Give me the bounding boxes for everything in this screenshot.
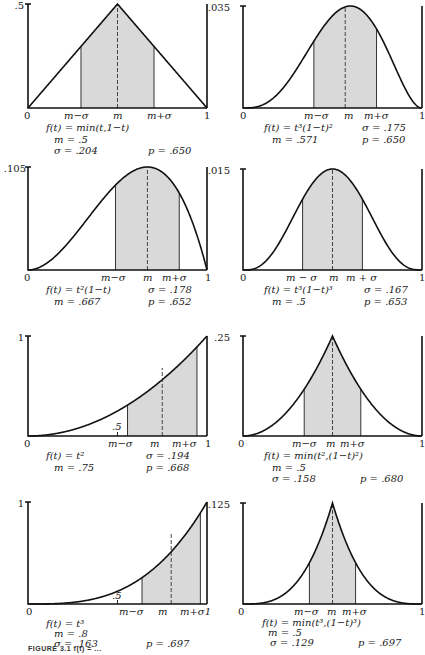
x-label-0: 0 — [240, 273, 246, 283]
plot-panel-4: .015 0 m − σ m m + σ 1 f(t) = t³(1−t)³ σ… — [212, 165, 424, 315]
stat-p: p = .668 — [146, 463, 189, 473]
x-label-m-minus-sigma: m−σ — [108, 439, 133, 449]
plot-panel-6: .25 0 m−σ m m+σ 1 f(t) = min(t²,(1−t)²) … — [212, 330, 424, 480]
stat-m: m = .75 — [54, 463, 94, 473]
formula: f(t) = min(t,1−t) — [46, 123, 129, 133]
stat-p: p = .650 — [148, 146, 191, 156]
x-label-1: 1 — [419, 111, 425, 121]
x-label-m-minus-sigma: m−σ — [292, 439, 317, 449]
stat-p: p = .697 — [146, 639, 189, 649]
y-max-label: .5 — [4, 1, 24, 11]
stat-m: m = .5 — [272, 463, 306, 473]
x-label-m: m — [158, 607, 167, 617]
figure-caption: FIGURE 3.1 f(t) = ... — [28, 645, 102, 652]
x-tick-half: .5 — [112, 422, 122, 432]
plot-svg — [0, 497, 212, 647]
x-label-0: 0 — [26, 607, 32, 617]
y-max-label: 1 — [4, 499, 24, 509]
plot-panel-2: .035 0 m−σ m m+σ 1 f(t) = t³(1−t)² σ = .… — [212, 0, 424, 150]
x-label-m-minus-sigma: m−σ — [294, 607, 319, 617]
y-max-label: .25 — [208, 333, 230, 343]
stat-p: p = .652 — [148, 297, 191, 307]
stat-m: m = .667 — [54, 297, 100, 307]
x-label-m-plus-sigma: m + σ — [346, 273, 377, 283]
y-max-label: 1 — [4, 333, 24, 343]
x-label-m-minus-sigma: m−σ — [119, 607, 144, 617]
x-label-0: 0 — [240, 111, 246, 121]
x-label-1: 1 — [205, 439, 211, 449]
x-label-m-minus-sigma: m−σ — [101, 273, 126, 283]
x-label-0: 0 — [24, 111, 30, 121]
stat-sigma: σ = .194 — [146, 451, 190, 461]
y-max-label: .125 — [206, 500, 230, 510]
stat-m: m = .5 — [272, 297, 306, 307]
stat-sigma: σ = .129 — [270, 638, 314, 648]
stat-sigma: σ = .204 — [54, 146, 98, 156]
x-label-m-plus-sigma: m+σ — [340, 439, 365, 449]
stat-m: m = .5 — [54, 135, 88, 145]
x-label-m: m — [344, 111, 353, 121]
stat-p: p = .697 — [358, 638, 401, 648]
x-label-1: 1 — [419, 439, 425, 449]
plot-panel-7: 1 .5 0 m−σ m m+σ1 f(t) = t³ m = .8 σ = .… — [0, 497, 212, 647]
x-label-0: 0 — [24, 439, 30, 449]
x-label-m-plus-sigma: m+σ — [342, 607, 367, 617]
x-label-m-plus-sigma: m+σ — [172, 439, 197, 449]
x-label-m: m — [326, 439, 335, 449]
x-label-1: 1 — [205, 273, 211, 283]
x-label-m: m — [329, 273, 338, 283]
y-max-label: .035 — [206, 3, 230, 13]
formula: f(t) = t³(1−t)³ — [264, 285, 333, 295]
stat-sigma: σ = .175 — [362, 123, 406, 133]
formula: f(t) = t³(1−t)² — [264, 123, 333, 133]
formula: f(t) = min(t²,(1−t)²) — [264, 451, 363, 461]
x-tick-half: .5 — [112, 591, 122, 601]
stat-m: m = .571 — [272, 135, 318, 145]
stat-sigma: σ = .158 — [272, 474, 316, 484]
plot-panel-8: .125 0 m−σ m m+σ 1 f(t) = min(t³,(1−t)³)… — [212, 497, 424, 647]
x-label-0: 0 — [238, 607, 244, 617]
x-label-0: 0 — [24, 273, 30, 283]
x-label-m: m — [143, 273, 152, 283]
stat-p: p = .653 — [364, 297, 407, 307]
x-label-m-minus-sigma: m−σ — [304, 111, 329, 121]
formula: f(t) = t²(1−t) — [46, 285, 111, 295]
plot-panel-5: 1 .5 0 m−σ m m+σ 1 f(t) = t² σ = .194 m … — [0, 330, 212, 480]
x-label-1: 1 — [204, 111, 210, 121]
x-label-1: 1 — [419, 607, 425, 617]
plot-panel-1: .5 0 m−σ m m+σ 1 f(t) = min(t,1−t) m = .… — [0, 0, 212, 150]
x-label-m-minus-sigma: m − σ — [286, 273, 317, 283]
stat-p: p = .650 — [362, 135, 405, 145]
x-label-m-minus-sigma: m−σ — [64, 111, 89, 121]
plot-panel-3: .105 0 m−σ m m+σ 1 f(t) = t²(1−t) σ = .1… — [0, 165, 212, 315]
x-label-m: m — [150, 439, 159, 449]
stat-p: p = .680 — [360, 474, 403, 484]
x-label-m: m — [113, 111, 122, 121]
x-label-m: m — [327, 607, 336, 617]
x-label-m-plus-sigma-1: m+σ1 — [180, 607, 211, 617]
y-max-label: .105 — [0, 164, 26, 174]
x-label-m-plus-sigma: m+σ — [147, 111, 172, 121]
stat-sigma: σ = .178 — [148, 285, 192, 295]
x-label-1: 1 — [419, 273, 425, 283]
y-max-label: .015 — [206, 166, 230, 176]
x-label-m-plus-sigma: m+σ — [162, 273, 187, 283]
stat-sigma: σ = .167 — [364, 285, 408, 295]
x-label-0: 0 — [238, 439, 244, 449]
x-label-m-plus-sigma: m+σ — [364, 111, 389, 121]
formula: f(t) = t² — [46, 451, 84, 461]
